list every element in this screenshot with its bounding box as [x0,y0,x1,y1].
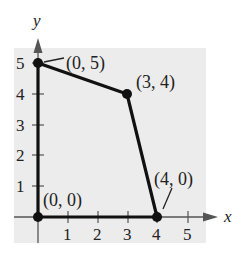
y-tick-label: 2 [16,146,25,165]
y-tick-label: 3 [16,116,25,135]
y-axis-arrow-icon [34,38,43,53]
y-axis-label: y [31,11,41,30]
x-tick-label: 5 [183,225,192,244]
x-tick-label: 2 [93,225,102,244]
label-3-4: (3, 4) [136,72,175,93]
x-axis-arrow-icon [203,213,218,222]
vertex-4-0 [152,212,162,222]
y-tick-label: 4 [16,85,25,104]
y-tick-label: 5 [16,54,25,73]
plot-background [14,48,206,243]
vertex-0-5 [33,58,43,68]
label-0-0: (0, 0) [43,190,82,211]
x-tick-label: 3 [123,225,132,244]
vertex-3-4 [122,89,132,99]
label-0-5: (0, 5) [66,53,105,74]
y-tick-label: 1 [16,177,25,196]
chart: x y 1 2 3 4 5 1 2 3 4 5 [0,0,245,259]
vertex-0-0 [33,212,43,222]
x-axis-label: x [223,207,232,226]
x-tick-label: 1 [63,225,72,244]
x-tick-label: 4 [152,225,161,244]
label-4-0: (4, 0) [154,169,193,190]
